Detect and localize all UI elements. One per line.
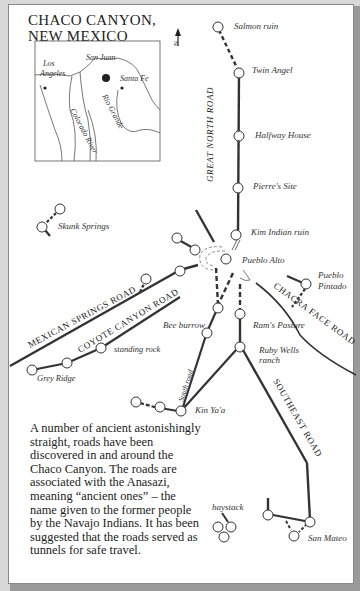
road-northwest-spur	[196, 210, 214, 242]
north-arrow-head	[175, 28, 181, 36]
inset-label-san-juan: San Juan	[86, 53, 116, 62]
label-pierres-site: Pierre's Site	[252, 181, 297, 191]
great-north-road: GREAT NORTH ROAD	[205, 30, 240, 250]
site-bee-burrow	[213, 303, 223, 313]
site-pueblo-alto	[221, 254, 231, 264]
label-pueblo-alto: Pueblo Alto	[241, 255, 285, 265]
label-bee-burrow: Bee burrow	[163, 320, 205, 330]
haystack-cluster	[213, 513, 236, 542]
site-san-mateo	[305, 517, 315, 527]
label-ruby-wells: Ruby Wells	[258, 345, 299, 355]
label-standing-rock: standing rock	[114, 344, 160, 354]
north-label: N	[172, 40, 180, 46]
label-twin-angel: Twin Angel	[252, 65, 293, 75]
label-kin-yaa: Kin Ya'a	[194, 405, 226, 415]
description-text: A number of ancient astonishingly straig…	[30, 422, 202, 558]
site-salmon-ruin	[213, 22, 223, 32]
site-rams-pasture	[235, 309, 245, 319]
label-pueblo: Pueblo	[317, 270, 344, 280]
north-arrow: N	[172, 28, 181, 46]
site-twin-angel	[234, 68, 244, 78]
label-ruby-wells-ranch: ranch	[259, 355, 280, 365]
label-halfway-house: Halfway House	[254, 130, 311, 140]
southeast-road: SOUTHEAST ROAD	[243, 350, 324, 520]
skunk-springs-cluster	[37, 204, 65, 236]
label-mexican-springs-road: MEXICAN SPRINGS ROAD	[26, 284, 138, 350]
label-haystack: haystack	[212, 502, 244, 512]
label-skunk-springs: Skunk Springs	[58, 221, 110, 231]
santa-fe-dot	[120, 86, 123, 89]
label-great-north-road: GREAT NORTH ROAD	[205, 87, 215, 182]
site-pueblo-pintado	[301, 279, 311, 289]
inset-map: Los Angeles San Juan Santa Fe Rio Grande…	[35, 41, 160, 161]
inset-label-angeles-text: Angeles	[39, 69, 65, 78]
los-angeles-dot	[43, 86, 46, 89]
site-kim-indian-ruin	[231, 230, 241, 240]
inset-label-santa-fe: Santa Fe	[120, 74, 149, 83]
pueblo-alto-hub	[196, 210, 250, 281]
site-halfway-house	[234, 131, 244, 141]
site-kin-yaa	[176, 406, 186, 416]
label-san-mateo: San Mateo	[308, 533, 347, 543]
site-grey-ridge	[27, 365, 37, 375]
label-kim-indian-ruin: Kim Indian ruin	[250, 227, 310, 237]
label-pintado: Pintado	[317, 281, 347, 291]
site-pierres-site	[233, 183, 243, 193]
label-salmon-ruin: Salmon ruin	[234, 21, 279, 31]
label-grey-ridge: Grey Ridge	[37, 373, 76, 383]
chaco-canyon-marker	[102, 74, 110, 82]
inset-label-los: Los	[42, 59, 55, 68]
